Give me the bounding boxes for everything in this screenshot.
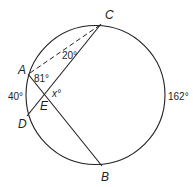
angle-label-C: 20° [62, 50, 77, 61]
point-label-C: C [105, 8, 114, 22]
point-label-A: A [17, 63, 26, 77]
chord-DC [27, 24, 101, 116]
point-label-E: E [40, 99, 49, 113]
point-label-B: B [101, 170, 109, 184]
circle [26, 26, 165, 165]
circle-diagram: C A E D B 81° 20° x° 40° 162° [0, 0, 193, 187]
angle-label-x: x° [51, 88, 61, 99]
point-label-D: D [18, 117, 27, 131]
arc-label-CB: 162° [168, 91, 189, 102]
chord-AB [28, 74, 102, 166]
angle-label-A: 81° [34, 73, 49, 84]
arc-label-AD: 40° [8, 91, 23, 102]
